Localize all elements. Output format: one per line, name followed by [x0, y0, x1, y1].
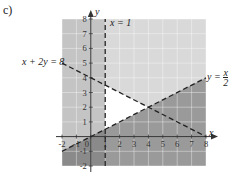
y-axis-arrow-icon	[88, 10, 94, 17]
y-tick-label: 6	[83, 43, 87, 53]
x-tick-label: 2	[117, 139, 121, 149]
y-equals-x-over-2-label: y = x 2	[207, 68, 228, 87]
y-tick-label: 3	[83, 88, 87, 98]
x-tick-label: 5	[161, 139, 165, 149]
y-axis-label: y	[95, 6, 99, 17]
line3-lhs: y =	[207, 71, 221, 82]
x-tick-label: 7	[189, 139, 193, 149]
x-tick-label: 4	[146, 139, 151, 149]
x-equals-1-label: x = 1	[110, 17, 131, 28]
y-tick-label: 1	[83, 117, 87, 127]
x-tick-label: -2	[58, 139, 65, 149]
x-tick-label: 6	[175, 139, 179, 149]
line3-denominator: 2	[223, 78, 228, 87]
y-tick-label: 5	[83, 58, 87, 68]
x-axis-label: x	[209, 127, 213, 138]
y-tick-label: 2	[83, 102, 87, 112]
x-tick-label: 8	[204, 139, 208, 149]
line-x-plus-2y-label: x + 2y = 8	[22, 56, 64, 67]
y-tick-label: -2	[80, 161, 87, 171]
y-tick-label: 7	[83, 29, 87, 39]
y-tick-label: 8	[83, 14, 87, 24]
x-tick-label: 3	[132, 139, 136, 149]
y-tick-label: -1	[80, 146, 87, 156]
